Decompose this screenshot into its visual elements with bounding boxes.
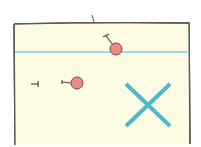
diagram-canvas	[0, 0, 201, 147]
box-right-edge	[189, 23, 190, 144]
box-left-edge	[14, 24, 15, 145]
sketch-illustration	[0, 0, 201, 147]
box-fill	[15, 24, 189, 145]
top-tick-mark	[92, 15, 94, 22]
